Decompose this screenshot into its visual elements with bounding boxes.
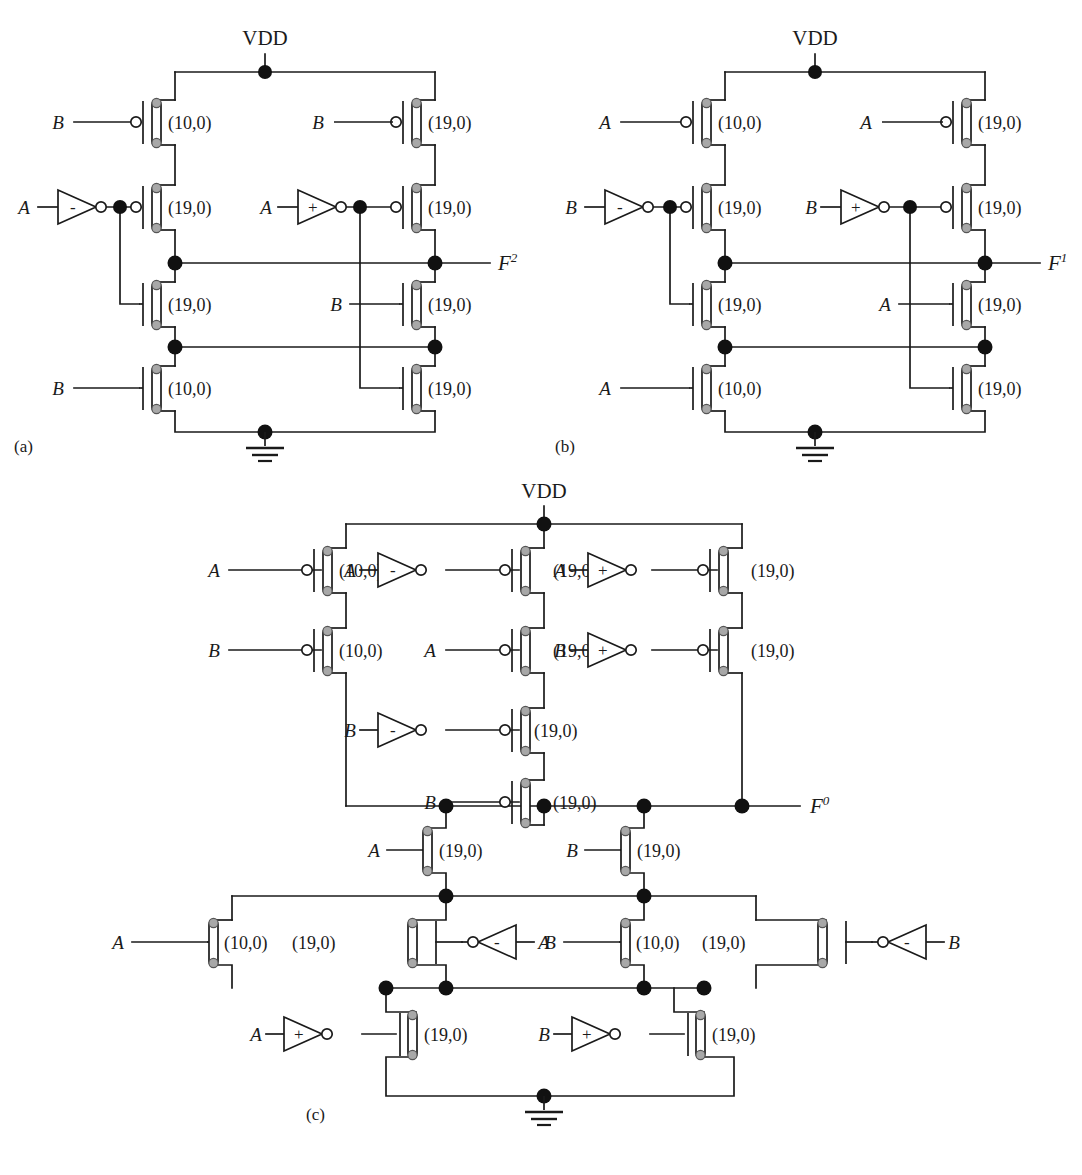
a-t3-nmos[interactable] bbox=[139, 280, 161, 329]
terminal-bottom bbox=[323, 586, 332, 595]
a-t1-pmos[interactable] bbox=[131, 98, 161, 147]
c-n7-nmos[interactable] bbox=[400, 1010, 417, 1059]
terminal-top bbox=[152, 98, 161, 107]
terminal-bottom bbox=[152, 223, 161, 232]
c-p7-pmos[interactable] bbox=[698, 546, 728, 595]
terminal-top bbox=[521, 626, 530, 635]
b-t4-nmos[interactable] bbox=[689, 364, 711, 413]
c-n3-nmos[interactable] bbox=[207, 918, 218, 967]
b-t4-size: (10,0) bbox=[718, 379, 762, 400]
terminal-bottom bbox=[696, 1050, 705, 1059]
a-inverter-plus[interactable]: + bbox=[298, 190, 346, 224]
b-t2-pmos[interactable] bbox=[681, 183, 711, 232]
c-n6-nmos[interactable] bbox=[818, 918, 846, 967]
c-p8-pmos[interactable] bbox=[698, 626, 728, 675]
c-n3-size: (10,0) bbox=[224, 933, 268, 954]
terminal-bottom bbox=[962, 404, 971, 413]
c-inv6-input: B bbox=[948, 932, 960, 953]
c-out-node-3 bbox=[637, 799, 652, 814]
a-t4-nmos[interactable] bbox=[139, 364, 161, 413]
a-t5-pmos[interactable] bbox=[391, 98, 421, 147]
b-inverter-minus[interactable]: - bbox=[605, 190, 653, 224]
c-p6-size: (19,0) bbox=[553, 793, 597, 814]
c-inverter-4-plus[interactable]: + bbox=[588, 633, 636, 667]
b-mid-node-right bbox=[978, 340, 993, 355]
b-inverter-plus[interactable]: + bbox=[841, 190, 889, 224]
b-t7-size: (19,0) bbox=[978, 295, 1022, 316]
c-n7-bot-wire bbox=[386, 1057, 544, 1096]
terminal-top bbox=[719, 626, 728, 635]
c-inverter-3-minus[interactable]: - bbox=[378, 713, 426, 747]
a-t8-nmos[interactable] bbox=[399, 364, 421, 413]
terminal-top bbox=[323, 626, 332, 635]
b-invL-node bbox=[663, 200, 677, 214]
b-inv-plus-sign: + bbox=[851, 198, 861, 217]
triangle-body bbox=[378, 713, 416, 747]
c-n1-gate-label: A bbox=[366, 840, 380, 861]
c-n3-bot-wire bbox=[217, 965, 232, 988]
b-invL-branch bbox=[670, 207, 689, 304]
c-inverter-6-minus-mirrored[interactable]: - bbox=[878, 925, 926, 959]
b-t5-pmos[interactable] bbox=[941, 98, 971, 147]
terminal-bottom bbox=[408, 958, 417, 967]
terminal-top bbox=[962, 280, 971, 289]
a-t6-size: (19,0) bbox=[428, 198, 472, 219]
c-inverter-7-plus[interactable]: + bbox=[284, 1017, 332, 1051]
c-out-node-1 bbox=[439, 799, 454, 814]
c-inverter-1-minus[interactable]: - bbox=[378, 553, 426, 587]
c-out-sup: 0 bbox=[823, 793, 830, 808]
terminal-top bbox=[521, 706, 530, 715]
b-t7-nmos[interactable] bbox=[949, 280, 971, 329]
c-n5-nmos[interactable] bbox=[619, 918, 630, 967]
a-invL-branch bbox=[120, 207, 139, 304]
b-t3-nmos[interactable] bbox=[689, 280, 711, 329]
c-inverter-8-plus[interactable]: + bbox=[572, 1017, 620, 1051]
b-t1-pmos[interactable] bbox=[681, 98, 711, 147]
triangle-body bbox=[378, 553, 416, 587]
b-out-node-right bbox=[978, 256, 993, 271]
c-inv3-sign: - bbox=[390, 721, 396, 740]
c-p1-pmos[interactable] bbox=[302, 546, 332, 595]
c-inverter-2-plus[interactable]: + bbox=[588, 553, 636, 587]
c-p6-pmos[interactable] bbox=[500, 778, 530, 827]
c-inverter-5-minus-mirrored[interactable]: - bbox=[468, 925, 516, 959]
c-p4-pmos[interactable] bbox=[500, 626, 530, 675]
c-n1-nmos[interactable] bbox=[422, 826, 432, 875]
c-n2-nmos[interactable] bbox=[620, 826, 630, 875]
c-n6-size: (19,0) bbox=[702, 933, 746, 954]
b-inv-minus-input: B bbox=[565, 197, 577, 218]
terminal-top bbox=[412, 98, 421, 107]
a-inverter-minus[interactable]: - bbox=[58, 190, 106, 224]
a-t7-nmos[interactable] bbox=[399, 280, 421, 329]
b-ground-symbol bbox=[796, 432, 834, 461]
terminal-top bbox=[621, 918, 630, 927]
inverter-bubble-icon bbox=[879, 202, 889, 212]
a-caption: (a) bbox=[14, 437, 33, 456]
a-t7-size: (19,0) bbox=[428, 295, 472, 316]
terminal-top bbox=[962, 183, 971, 192]
c-low-node-2 bbox=[439, 981, 454, 996]
inverter-bubble-icon bbox=[610, 1029, 620, 1039]
a-inv-plus-sign: + bbox=[308, 198, 318, 217]
c-n8-nmos[interactable] bbox=[688, 1010, 705, 1059]
a-t2-pmos[interactable] bbox=[131, 183, 161, 232]
terminal-top bbox=[621, 826, 630, 835]
inverter-bubble-icon bbox=[336, 202, 346, 212]
c-p3-pmos[interactable] bbox=[500, 546, 530, 595]
a-t1-size: (10,0) bbox=[168, 113, 212, 134]
terminal-bottom bbox=[521, 746, 530, 755]
a-t6-pmos[interactable] bbox=[391, 183, 421, 232]
b-inv-plus-input: B bbox=[805, 197, 817, 218]
c-p2-pmos[interactable] bbox=[302, 626, 332, 675]
b-t4-gate-label: A bbox=[597, 378, 611, 399]
b-t6-pmos[interactable] bbox=[941, 183, 971, 232]
c-p5-pmos[interactable] bbox=[500, 706, 530, 755]
b-t1-gate-label: A bbox=[597, 112, 611, 133]
terminal-bottom bbox=[412, 404, 421, 413]
c-n4-nmos[interactable] bbox=[408, 918, 436, 967]
terminal-top bbox=[962, 98, 971, 107]
terminal-top bbox=[408, 1010, 417, 1019]
terminal-top bbox=[152, 183, 161, 192]
b-t8-nmos[interactable] bbox=[949, 364, 971, 413]
c-inv5-sign: - bbox=[494, 933, 500, 952]
